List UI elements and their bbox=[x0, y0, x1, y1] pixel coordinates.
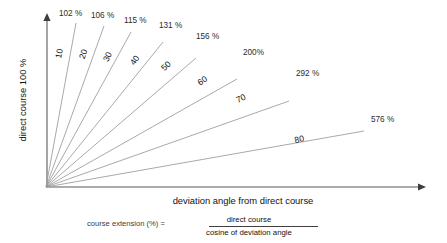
percent-label-30deg: 115 % bbox=[124, 16, 147, 25]
angle-label-60: 60 bbox=[196, 74, 210, 88]
y-axis-label: direct course 100 % bbox=[17, 59, 28, 142]
percent-label-70deg: 292 % bbox=[296, 69, 319, 78]
formula-numerator: direct course bbox=[227, 215, 272, 224]
ray-line-10deg bbox=[46, 23, 76, 187]
course-extension-diagram: 1020304050607080 102 %106 %115 %131 %156… bbox=[0, 0, 447, 243]
angle-label-50: 50 bbox=[159, 59, 173, 73]
percent-label-20deg: 106 % bbox=[91, 11, 114, 20]
percent-label-50deg: 156 % bbox=[196, 32, 219, 41]
percent-label-60deg: 200% bbox=[243, 48, 264, 57]
percent-label-10deg: 102 % bbox=[59, 9, 82, 18]
percent-labels-group: 102 %106 %115 %131 %156 %200%292 %576 % bbox=[59, 9, 394, 124]
ray-line-60deg bbox=[46, 79, 237, 187]
ray-lines-group bbox=[46, 23, 364, 187]
formula-group: course extension (%) = direct course cos… bbox=[87, 215, 318, 237]
formula-denominator: cosine of deviation angle bbox=[206, 228, 292, 237]
ray-line-40deg bbox=[46, 42, 163, 187]
y-axis-arrowhead bbox=[43, 13, 50, 21]
percent-label-40deg: 131 % bbox=[159, 21, 182, 30]
axes-group bbox=[43, 13, 426, 191]
ray-line-50deg bbox=[46, 58, 196, 187]
percent-label-80deg: 576 % bbox=[371, 115, 394, 124]
angle-label-30: 30 bbox=[101, 50, 114, 63]
formula-left-hand-side: course extension (%) = bbox=[87, 219, 165, 228]
angle-label-40: 40 bbox=[128, 53, 142, 67]
angle-label-70: 70 bbox=[234, 92, 247, 105]
ray-line-80deg bbox=[46, 131, 364, 187]
x-axis-arrowhead bbox=[418, 183, 426, 190]
ray-line-70deg bbox=[46, 101, 289, 187]
x-axis-label: deviation angle from direct course bbox=[173, 195, 314, 206]
angle-label-20: 20 bbox=[77, 48, 90, 60]
angle-label-10: 10 bbox=[53, 48, 65, 60]
angle-label-80: 80 bbox=[293, 133, 305, 145]
